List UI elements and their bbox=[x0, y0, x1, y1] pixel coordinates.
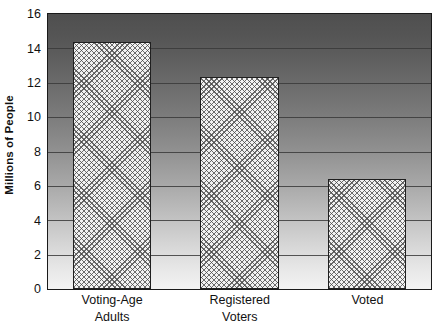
bar bbox=[328, 179, 407, 289]
x-axis-tick-label-line2: Voters bbox=[210, 309, 270, 326]
y-axis-title: Millions of People bbox=[0, 0, 18, 290]
y-axis-title-text: Millions of People bbox=[3, 95, 15, 195]
y-axis-tick-label: 8 bbox=[34, 146, 41, 159]
x-axis-tick-label-line2: Adults bbox=[82, 309, 143, 326]
y-axis-tick-label: 0 bbox=[34, 283, 41, 296]
x-axis-tick-label: Voting-AgeAdults bbox=[82, 292, 143, 326]
x-axis-tick-labels: Voting-AgeAdultsRegisteredVotersVoted bbox=[47, 292, 432, 329]
y-axis-tick-label: 14 bbox=[27, 42, 41, 55]
bar bbox=[200, 77, 279, 289]
y-axis-tick-label: 4 bbox=[34, 214, 41, 227]
y-axis-tick-labels: 0246810121416 bbox=[18, 0, 44, 300]
y-axis-tick-label: 10 bbox=[27, 111, 41, 124]
y-axis-tick-label: 12 bbox=[27, 77, 41, 90]
x-axis-tick-label: RegisteredVoters bbox=[210, 292, 270, 326]
x-axis-tick-label-line1: Registered bbox=[210, 293, 270, 307]
y-axis-tick-label: 16 bbox=[27, 8, 41, 21]
y-axis-tick-label: 6 bbox=[34, 180, 41, 193]
x-axis-tick-label-line1: Voting-Age bbox=[82, 293, 143, 307]
x-axis-tick-label-line1: Voted bbox=[351, 293, 383, 307]
bar-chart: Millions of People 0246810121416 Voting-… bbox=[0, 0, 441, 329]
x-axis-tick-label: Voted bbox=[351, 292, 383, 309]
y-axis-tick-label: 2 bbox=[34, 249, 41, 262]
plot-area bbox=[47, 13, 432, 290]
bar bbox=[73, 42, 152, 289]
